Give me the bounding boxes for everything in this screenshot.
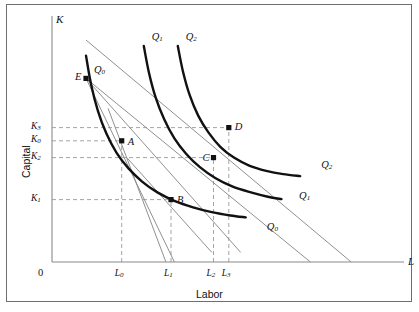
tangent-at-A — [108, 108, 166, 262]
point-label-B: B — [177, 195, 183, 206]
isoquant-Q2 — [178, 46, 300, 176]
isocost-lower — [86, 78, 310, 262]
curve-label-top-Q1: Q1 — [152, 32, 163, 43]
y-tick-K3: K3 — [31, 122, 41, 132]
isocost-upper — [86, 40, 351, 262]
x-tick-L3: L3 — [222, 269, 231, 279]
isocost-line-layer — [86, 40, 351, 262]
curve-label-right-Q0: Q0 — [267, 222, 278, 233]
y-tick-K0: K0 — [31, 135, 41, 145]
y-axis-symbol: K — [56, 14, 63, 25]
x-tick-L2: L2 — [207, 269, 216, 279]
x-axis-symbol: L — [408, 256, 414, 267]
y-tick-K2: K2 — [31, 152, 41, 162]
point-label-A: A — [128, 137, 134, 148]
curve-label-right-Q1: Q1 — [299, 191, 310, 202]
point-label-C: C — [203, 153, 210, 164]
point-marker-D — [226, 125, 231, 130]
axis-layer — [52, 16, 404, 262]
isoquant-curve-layer — [86, 46, 300, 217]
isoquant-Q0 — [86, 56, 246, 218]
curve-label-right-Q2: Q2 — [321, 160, 332, 171]
point-marker-B — [168, 197, 173, 202]
x-tick-L1: L1 — [164, 269, 173, 279]
x-tick-L0: L0 — [115, 269, 124, 279]
x-axis-title: Labor — [196, 288, 223, 300]
point-marker-C — [211, 155, 216, 160]
point-marker-A — [119, 138, 124, 143]
figure-page: K L 0 Capital Labor K3K0K2K1L0L1L2L3EABC… — [0, 0, 419, 312]
curve-label-top-Q0: Q0 — [94, 65, 105, 76]
curve-label-top-Q2: Q2 — [186, 32, 197, 43]
y-tick-K1: K1 — [31, 194, 41, 204]
origin-label: 0 — [38, 268, 43, 279]
point-label-D: D — [235, 122, 243, 133]
point-label-E: E — [75, 72, 81, 83]
point-marker-E — [83, 76, 88, 81]
isoquant-Q1 — [144, 46, 282, 199]
